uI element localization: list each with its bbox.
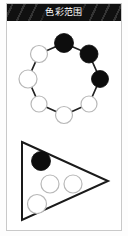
ring-graph-figure — [7, 21, 121, 136]
ring-edge — [31, 86, 36, 97]
ring-node-n6[interactable] — [31, 96, 47, 112]
page-card: 色彩范围 — [6, 3, 122, 231]
ring-edge — [71, 107, 83, 112]
triangle-circle-t2[interactable] — [41, 175, 59, 193]
ring-edge — [92, 86, 97, 98]
title-bar: 色彩范围 — [7, 4, 121, 21]
ring-node-n4[interactable] — [81, 96, 97, 112]
ring-edge — [31, 61, 36, 72]
ring-node-n7[interactable] — [19, 70, 37, 88]
ring-node-n1[interactable] — [55, 34, 74, 53]
canvas-area — [7, 21, 121, 230]
triangle-circle-t1[interactable] — [32, 152, 51, 171]
triangle-figure — [7, 134, 121, 230]
ring-edge — [72, 46, 82, 50]
ring-edge — [46, 46, 56, 51]
ring-node-n8[interactable] — [31, 46, 48, 63]
app-root: 色彩范围 — [0, 0, 128, 236]
ring-node-group — [19, 34, 109, 124]
ring-graph-svg — [7, 21, 121, 136]
triangle-circle-t3[interactable] — [64, 175, 82, 193]
ring-node-n3[interactable] — [92, 71, 109, 88]
triangle-svg — [7, 134, 121, 230]
page-title: 色彩范围 — [45, 7, 82, 18]
ring-edge — [92, 61, 97, 72]
ring-node-n5[interactable] — [56, 107, 73, 124]
triangle-circle-t4[interactable] — [28, 195, 47, 214]
ring-node-n2[interactable] — [80, 45, 98, 63]
ring-edge — [45, 107, 57, 112]
